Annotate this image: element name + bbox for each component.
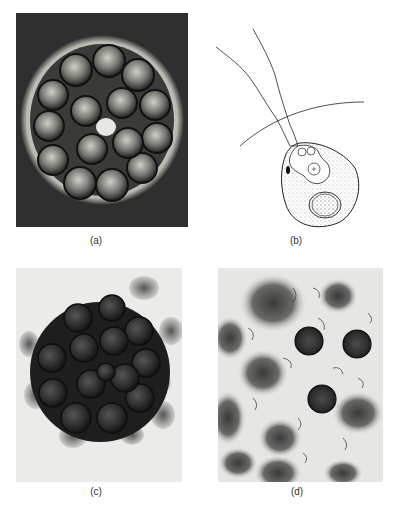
- panel-d-label: (d): [277, 486, 317, 497]
- panel-c-micrograph: [16, 268, 182, 482]
- panel-b-drawing: [200, 0, 396, 230]
- panel-d-micrograph: [218, 268, 383, 482]
- panel-c-label: (c): [76, 486, 116, 497]
- panel-b-label: (b): [276, 235, 316, 246]
- panel-a-micrograph: [16, 13, 188, 227]
- panel-a-label: (a): [76, 235, 116, 246]
